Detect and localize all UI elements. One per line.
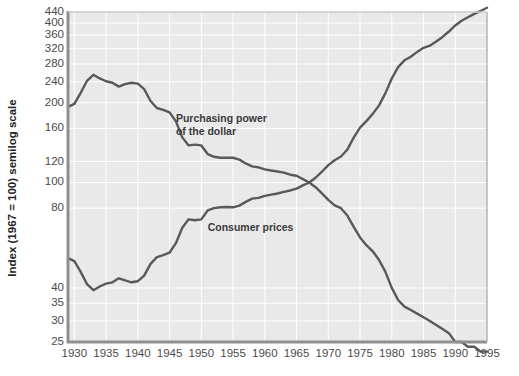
annotation-purchasing-power-line2: of the dollar [176,125,267,138]
x-tick-label: 1935 [90,347,122,359]
y-tick-label: 160 [45,122,64,133]
y-tick-label: 30 [51,315,64,326]
x-tick-label: 1950 [185,347,217,359]
x-tick-label: 1990 [439,347,471,359]
x-tick-label: 1945 [154,347,186,359]
x-tick-label: 1960 [249,347,281,359]
x-tick-label: 1930 [58,347,90,359]
y-tick-label: 80 [51,202,64,213]
plot-background [68,12,487,342]
plot-canvas [0,0,519,376]
y-tick-label: 35 [51,297,64,308]
chart-figure: Index (1967 = 100) semilog scale 4404003… [0,0,519,376]
y-tick-label: 100 [45,176,64,187]
x-tick-label: 1955 [217,347,249,359]
x-tick-label: 1985 [408,347,440,359]
x-tick-label: 1970 [312,347,344,359]
y-tick-label: 280 [45,58,64,69]
y-axis-title: Index (1967 = 100) semilog scale [0,0,24,376]
y-tick-label: 120 [45,156,64,167]
y-tick-label: 25 [51,336,64,347]
y-axis-title-text: Index (1967 = 100) semilog scale [6,99,18,276]
y-tick-label: 360 [45,29,64,40]
y-axis-tick-labels: 4404003603202802402001601201008040353025 [26,0,64,376]
x-tick-label: 1965 [281,347,313,359]
annotation-consumer-prices-line1: Consumer prices [208,221,294,234]
x-tick-label: 1940 [122,347,154,359]
x-tick-label: 1995 [471,347,503,359]
y-tick-label: 400 [45,17,64,28]
y-tick-label: 240 [45,76,64,87]
annotation-purchasing-power-line1: Purchasing power [176,112,267,125]
x-tick-label: 1980 [376,347,408,359]
annotation-purchasing-power: Purchasing power of the dollar [176,112,267,138]
y-tick-label: 40 [51,282,64,293]
annotation-consumer-prices: Consumer prices [208,221,294,234]
y-tick-label: 200 [45,97,64,108]
y-tick-label: 320 [45,43,64,54]
x-tick-label: 1975 [344,347,376,359]
